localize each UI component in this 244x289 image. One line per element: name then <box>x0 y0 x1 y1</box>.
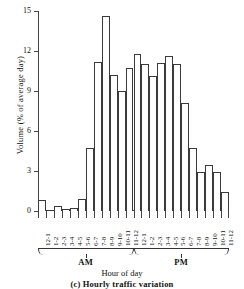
x-tick <box>205 211 206 218</box>
bar <box>102 16 110 211</box>
x-axis-tick-labels: 12-11-22-33-44-55-66-77-88-99-1010-1111-… <box>38 218 229 248</box>
x-axis-ticks <box>38 211 229 218</box>
x-tick <box>134 211 135 218</box>
x-tick <box>197 211 198 218</box>
x-tick <box>157 211 158 218</box>
x-tick <box>165 211 166 218</box>
bar <box>86 148 94 211</box>
bar <box>118 91 126 211</box>
y-tick-label: 0 <box>27 205 31 216</box>
x-tick <box>189 211 190 218</box>
bar <box>141 64 149 211</box>
x-tick <box>173 211 174 218</box>
x-tick <box>70 211 71 218</box>
x-tick <box>110 211 111 218</box>
bar <box>110 75 118 211</box>
bar <box>165 56 173 211</box>
x-tick <box>78 211 79 218</box>
x-tick-label: 5-6 <box>84 237 92 246</box>
x-tick <box>46 211 47 218</box>
x-tick <box>38 211 39 218</box>
x-tick <box>62 211 63 218</box>
bar <box>134 54 142 211</box>
x-tick-label: 2-3 <box>156 237 164 246</box>
y-tick-label: 15 <box>23 5 31 16</box>
x-tick-label: 3-4 <box>68 237 76 246</box>
x-tick <box>149 211 150 218</box>
x-tick-label: 1-2 <box>148 237 156 246</box>
x-tick <box>141 211 142 218</box>
bar <box>94 62 102 211</box>
bar <box>157 63 165 211</box>
x-tick-label: 11-12 <box>132 230 140 246</box>
x-tick-label: 1-2 <box>52 237 60 246</box>
y-tick-label: 3 <box>27 165 31 176</box>
bar <box>126 68 134 211</box>
period-braces: AMPM <box>38 248 229 258</box>
bar <box>78 199 86 211</box>
bar <box>221 192 229 211</box>
figure-caption: (c) Hourly traffic variation <box>0 279 244 289</box>
x-tick-label: 8-9 <box>108 237 116 246</box>
x-tick-label: 12-1 <box>44 233 52 246</box>
bar <box>149 76 157 211</box>
x-tick <box>126 211 127 218</box>
bar-series <box>38 11 229 211</box>
x-tick-label: 2-3 <box>60 237 68 246</box>
x-tick <box>221 211 222 218</box>
x-tick-label: 4-5 <box>76 237 84 246</box>
x-tick-label: 7-8 <box>100 237 108 246</box>
x-tick-label: 3-4 <box>164 237 172 246</box>
bar <box>181 103 189 211</box>
bar <box>213 172 221 211</box>
x-tick <box>213 211 214 218</box>
bar <box>205 165 213 211</box>
y-tick-label: 6 <box>27 125 31 136</box>
x-axis-title: Hour of day <box>0 268 244 278</box>
period-label-am: AM <box>78 257 93 267</box>
bar <box>173 64 181 211</box>
y-tick-label: 12 <box>23 45 31 56</box>
y-tick-label: 9 <box>27 85 31 96</box>
x-tick-label: 12-1 <box>140 233 148 246</box>
x-tick-label: 6-7 <box>92 237 100 246</box>
x-tick <box>54 211 55 218</box>
bar <box>189 148 197 211</box>
x-tick-label: 10-11 <box>124 230 132 246</box>
plot-area: 03691215 <box>38 11 229 211</box>
figure-hourly-traffic-variation: Volume (% of average day) 03691215 12-11… <box>0 0 244 289</box>
x-tick <box>102 211 103 218</box>
x-tick-label: 11-12 <box>227 230 235 246</box>
period-label-pm: PM <box>174 257 188 267</box>
x-tick <box>118 211 119 218</box>
x-tick <box>86 211 87 218</box>
bar <box>197 172 205 211</box>
bar <box>38 200 46 211</box>
x-tick <box>228 211 229 218</box>
x-tick-label: 9-10 <box>116 233 124 246</box>
x-tick <box>94 211 95 218</box>
x-tick <box>181 211 182 218</box>
